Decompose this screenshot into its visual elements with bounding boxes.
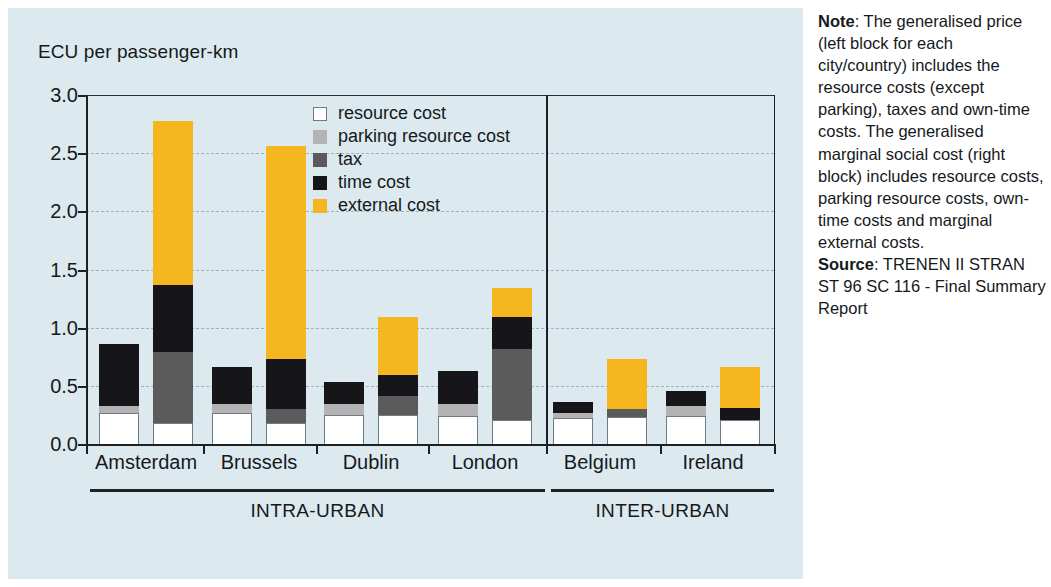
y-axis-tick-label: 1.0	[50, 316, 78, 339]
bar-segment-time	[324, 382, 364, 404]
bar-segment-resource	[212, 413, 252, 444]
bar-london-marginal-social-cost	[492, 288, 532, 444]
bar-segment-external	[607, 359, 647, 409]
y-axis-tick-labels: 3.02.52.01.51.00.50.0	[28, 8, 78, 579]
bar-segment-resource	[607, 417, 647, 444]
bar-segment-external	[378, 317, 418, 375]
legend-label: parking resource cost	[338, 126, 510, 147]
bar-segment-parking	[666, 406, 706, 416]
group-rule	[90, 489, 545, 492]
bar-brussels-generalised-price	[212, 367, 252, 444]
bar-dublin-generalised-price	[324, 382, 364, 444]
x-axis-tick-mark	[546, 444, 548, 454]
bar-segment-tax	[266, 409, 306, 423]
category-label-belgium: Belgium	[564, 451, 636, 474]
bar-segment-resource	[378, 415, 418, 444]
bar-segment-tax	[153, 352, 193, 423]
bar-segment-tax	[492, 349, 532, 420]
category-label-dublin: Dublin	[343, 451, 400, 474]
bar-segment-time	[99, 344, 139, 406]
legend-label: resource cost	[338, 103, 446, 124]
category-label-brussels: Brussels	[221, 451, 298, 474]
legend-label: external cost	[338, 195, 440, 216]
bar-brussels-marginal-social-cost	[266, 146, 306, 444]
bar-segment-resource	[99, 413, 139, 444]
bar-segment-resource	[720, 420, 760, 444]
legend-swatch-external-icon	[313, 199, 327, 213]
note-heading-separator: :	[855, 12, 864, 30]
chart-panel: ECU per passenger-km 3.02.52.01.51.00.50…	[8, 8, 803, 579]
note-body-text: The generalised price (left block for ea…	[818, 12, 1044, 251]
x-axis-tick-mark	[660, 444, 662, 454]
x-axis-tick-mark	[86, 444, 88, 454]
bar-segment-parking	[212, 404, 252, 412]
y-axis-tick-label: 0.5	[50, 374, 78, 397]
bar-amsterdam-marginal-social-cost	[153, 121, 193, 444]
plot-right-border	[774, 95, 775, 445]
bar-segment-time	[438, 371, 478, 405]
source-heading: Source	[818, 255, 874, 273]
bar-ireland-generalised-price	[666, 391, 706, 444]
legend-label: tax	[338, 149, 362, 170]
category-label-ireland: Ireland	[682, 451, 743, 474]
bar-segment-parking	[99, 406, 139, 413]
source-heading-separator: :	[874, 255, 883, 273]
legend-swatch-parking-icon	[313, 130, 327, 144]
note-column: Note: The generalised price (left block …	[818, 10, 1046, 319]
legend-item: parking resource cost	[313, 125, 510, 148]
bar-dublin-marginal-social-cost	[378, 317, 418, 444]
bar-segment-external	[266, 146, 306, 359]
category-label-london: London	[452, 451, 519, 474]
legend-swatch-tax-icon	[313, 153, 327, 167]
bar-amsterdam-generalised-price	[99, 344, 139, 444]
bar-london-generalised-price	[438, 371, 478, 444]
bar-segment-time	[266, 359, 306, 409]
legend-swatch-resource-icon	[313, 107, 327, 121]
bar-segment-resource	[324, 415, 364, 444]
bar-segment-external	[720, 367, 760, 408]
y-axis-tick-label: 3.0	[50, 84, 78, 107]
legend-item: tax	[313, 148, 510, 171]
bar-segment-external	[492, 288, 532, 317]
bar-belgium-marginal-social-cost	[607, 359, 647, 444]
group-rule	[551, 489, 774, 492]
legend: resource costparking resource costtaxtim…	[313, 102, 510, 217]
y-axis-tick-label: 2.5	[50, 142, 78, 165]
x-axis-tick-mark	[316, 444, 318, 454]
bar-segment-external	[153, 121, 193, 285]
bar-segment-resource	[492, 420, 532, 444]
legend-item: external cost	[313, 194, 510, 217]
bar-segment-tax	[378, 396, 418, 415]
bar-segment-time	[553, 402, 593, 412]
bar-segment-tax	[607, 409, 647, 417]
y-axis-tick-label: 0.0	[50, 433, 78, 456]
bar-segment-resource	[666, 416, 706, 444]
bar-segment-parking	[438, 404, 478, 416]
source-paragraph: Source: TRENEN II STRAN ST 96 SC 116 - F…	[818, 253, 1046, 319]
bar-segment-time	[153, 285, 193, 352]
bar-segment-parking	[324, 404, 364, 414]
x-axis-tick-mark	[428, 444, 430, 454]
x-axis-tick-mark	[774, 444, 776, 454]
bar-ireland-marginal-social-cost	[720, 367, 760, 444]
gridline	[86, 95, 774, 96]
x-axis-line	[86, 444, 776, 446]
category-label-amsterdam: Amsterdam	[95, 451, 197, 474]
legend-item: time cost	[313, 171, 510, 194]
bar-segment-resource	[153, 423, 193, 444]
group-label-inter-urban: INTER-URBAN	[595, 500, 729, 522]
bar-segment-resource	[438, 416, 478, 444]
bar-segment-time	[666, 391, 706, 406]
legend-label: time cost	[338, 172, 410, 193]
x-axis-tick-mark	[203, 444, 205, 454]
y-axis-tick-label: 1.5	[50, 258, 78, 281]
bar-segment-resource	[266, 423, 306, 444]
y-axis-line	[86, 95, 88, 445]
note-paragraph: Note: The generalised price (left block …	[818, 10, 1046, 253]
bar-segment-time	[378, 375, 418, 396]
group-divider-line	[546, 95, 548, 445]
bar-segment-time	[212, 367, 252, 404]
group-label-intra-urban: INTRA-URBAN	[250, 500, 384, 522]
legend-swatch-time-icon	[313, 176, 327, 190]
bar-belgium-generalised-price	[553, 402, 593, 444]
